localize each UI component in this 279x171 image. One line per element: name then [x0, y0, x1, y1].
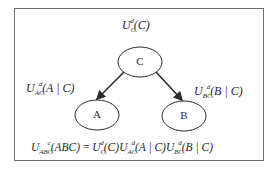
- right-conditional-label: UBCd(B | C): [194, 84, 243, 100]
- edge-c-to-b: [156, 72, 182, 100]
- edge-c-to-a: [97, 72, 124, 99]
- left-conditional-label: UACd(A | C): [26, 81, 75, 97]
- joint-formula: UABCc(ABC) = UCd(C)UACd(A | C)UBCd(B | C…: [31, 140, 213, 156]
- node-a-label: A: [87, 109, 107, 120]
- node-b-label: B: [174, 110, 194, 121]
- node-c-label: C: [130, 56, 150, 67]
- root-potential-label: UCd(C): [122, 18, 150, 34]
